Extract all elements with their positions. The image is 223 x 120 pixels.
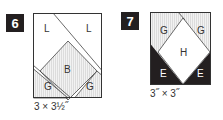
label-e-right: E (197, 68, 204, 79)
block-6-diagram: L L B G G (33, 13, 102, 98)
block-7-diagram: G G H E E (150, 12, 211, 85)
label-g-right: G (86, 81, 94, 92)
block-number-badge-6: 6 (6, 14, 24, 32)
label-h: H (180, 47, 187, 58)
label-e-left: E (160, 68, 167, 79)
label-l-left: L (44, 23, 50, 34)
label-b: B (64, 64, 71, 75)
block-6-size: 3 × 3½˝ (34, 101, 68, 112)
label-g-left: G (160, 25, 168, 36)
block-7-size: 3˝ × 3˝ (150, 88, 179, 99)
label-g-left: G (44, 81, 52, 92)
label-g-right: G (197, 25, 205, 36)
label-l-right: L (86, 23, 92, 34)
block-number-badge-7: 7 (121, 12, 139, 30)
